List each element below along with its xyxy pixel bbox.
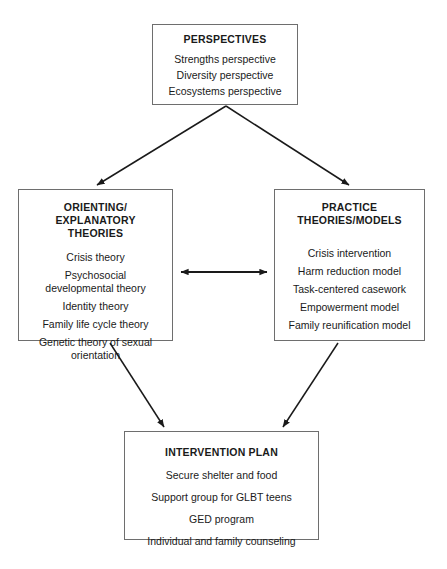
node-intervention-title: INTERVENTION PLAN [165,446,278,459]
node-perspectives-item: Diversity perspective [177,69,274,82]
node-orienting-explanatory-theories: ORIENTING/ EXPLANATORY THEORIES Crisis t… [18,189,173,341]
node-practice-theories-models: PRACTICE THEORIES/MODELS Crisis interven… [274,189,425,341]
node-perspectives-items: Strengths perspective Diversity perspect… [153,53,297,98]
node-intervention-item: Individual and family counseling [147,535,295,548]
node-intervention-item: GED program [189,513,254,526]
connector-practice-to-intervention [283,343,338,427]
node-perspectives-item: Ecosystems perspective [168,85,281,98]
node-intervention-item: Support group for GLBT teens [151,491,291,504]
node-practice-item: Empowerment model [300,301,399,314]
node-intervention-items: Secure shelter and food Support group fo… [125,469,318,548]
node-orienting-item: Psychosocial developmental theory [45,269,145,295]
node-orienting-title: ORIENTING/ EXPLANATORY THEORIES [55,201,135,240]
node-practice-item: Task-centered casework [293,283,406,296]
connector-perspectives-to-orienting [97,106,226,185]
diagram-canvas: PERSPECTIVES Strengths perspective Diver… [0,0,447,569]
node-orienting-item: Genetic theory of sexual orientation [39,336,152,362]
node-intervention-plan: INTERVENTION PLAN Secure shelter and foo… [124,431,319,540]
node-intervention-item: Secure shelter and food [166,469,278,482]
node-orienting-item: Identity theory [63,300,129,313]
node-practice-item: Family reunification model [289,319,411,332]
connector-perspectives-to-practice [226,106,349,185]
node-practice-items: Crisis intervention Harm reduction model… [275,247,424,332]
node-perspectives: PERSPECTIVES Strengths perspective Diver… [152,24,298,105]
node-practice-item: Crisis intervention [308,247,391,260]
node-perspectives-item: Strengths perspective [174,53,276,66]
node-practice-title: PRACTICE THEORIES/MODELS [297,201,402,227]
node-practice-item: Harm reduction model [298,265,401,278]
node-perspectives-title: PERSPECTIVES [184,33,267,46]
node-orienting-items: Crisis theory Psychosocial developmental… [19,251,172,362]
node-orienting-item: Family life cycle theory [42,318,148,331]
node-orienting-item: Crisis theory [66,251,124,264]
